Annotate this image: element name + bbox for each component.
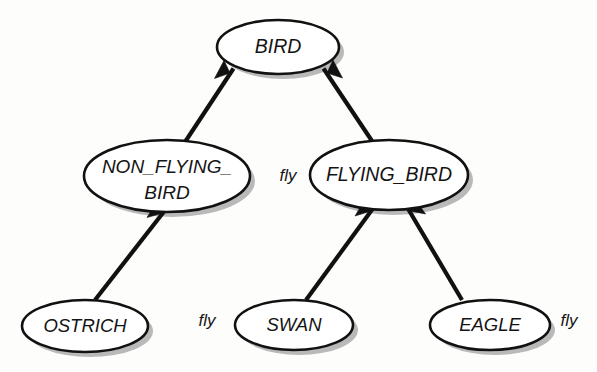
node-swan[interactable]: SWAN: [235, 300, 353, 350]
node-flying-bird[interactable]: FLYING_BIRD: [310, 140, 468, 210]
inheritance-hierarchy-diagram: BIRD NON_FLYING_ BIRD FLYING_BIRD OSTRIC…: [0, 0, 597, 372]
node-non-flying-bird-label-line2: BIRD: [144, 182, 190, 203]
edge-ostrich-to-non-flying-bird: [95, 201, 166, 301]
node-flying-bird-label: FLYING_BIRD: [326, 163, 452, 185]
node-bird-label: BIRD: [255, 35, 302, 57]
node-ostrich[interactable]: OSTRICH: [22, 300, 148, 352]
fly-label-swan: fly: [199, 311, 218, 330]
node-bird[interactable]: BIRD: [217, 20, 339, 74]
edge-line: [324, 69, 373, 142]
node-eagle[interactable]: EAGLE: [430, 300, 550, 350]
edge-flying-bird-to-bird: [324, 60, 373, 141]
diagram-canvas: BIRD NON_FLYING_ BIRD FLYING_BIRD OSTRIC…: [0, 0, 597, 372]
edge-line: [95, 209, 166, 300]
node-non-flying-bird[interactable]: NON_FLYING_ BIRD: [84, 140, 250, 212]
edge-swan-to-flying-bird: [306, 199, 374, 301]
node-swan-label: SWAN: [266, 314, 322, 335]
edge-line: [407, 207, 462, 300]
edge-line: [306, 207, 374, 300]
edge-line: [185, 69, 234, 143]
node-eagle-label: EAGLE: [459, 314, 521, 335]
fly-label-eagle: fly: [561, 311, 580, 330]
node-ostrich-label: OSTRICH: [43, 315, 127, 336]
node-non-flying-bird-label-line1: NON_FLYING_: [102, 156, 232, 177]
fly-label-flying-bird: fly: [280, 166, 299, 185]
edge-non-flying-bird-to-bird: [185, 61, 234, 143]
